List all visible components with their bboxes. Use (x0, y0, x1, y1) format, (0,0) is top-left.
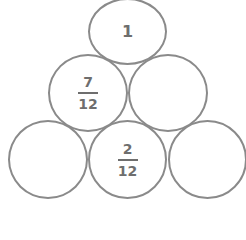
circle-value: 1 (122, 22, 133, 41)
fraction-bar (118, 159, 138, 161)
numerator: 2 (123, 141, 133, 157)
circle-bottom-right[interactable] (168, 120, 246, 199)
denominator: 12 (118, 163, 137, 179)
circle-middle-left: 7 12 (48, 54, 128, 132)
numerator: 7 (83, 74, 93, 90)
circle-bottom-left[interactable] (8, 120, 88, 199)
fraction: 7 12 (78, 74, 98, 112)
fraction-bar (78, 92, 98, 94)
denominator: 12 (78, 96, 97, 112)
circle-bottom-middle: 2 12 (88, 120, 167, 199)
circle-middle-right[interactable] (128, 54, 208, 132)
fraction: 2 12 (118, 141, 138, 179)
